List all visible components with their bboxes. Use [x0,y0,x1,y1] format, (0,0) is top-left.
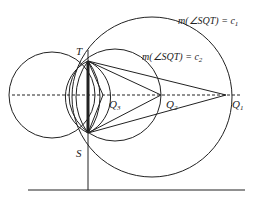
circle-c1 [72,17,232,177]
label-s: S [76,147,82,159]
triangle-q2 [88,61,161,133]
label-q1: Q1 [232,98,243,112]
triangle-q3 [88,61,103,133]
annotation-c2: m(∠SQT) = c2 [142,51,203,64]
annotation-c1: m(∠SQT) = c1 [178,15,238,28]
arc-inner-right [88,61,100,133]
angle-locus-diagram: T S Q3 Q2 Q1 m(∠SQT) = c1 m(∠SQT) = c2 [0,0,258,202]
label-q3: Q3 [109,98,121,112]
label-q2: Q2 [166,98,178,112]
arc-q3-right [88,61,111,133]
label-t: T [76,45,83,57]
